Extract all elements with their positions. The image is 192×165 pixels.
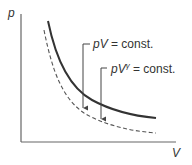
x-axis-label: V	[172, 147, 180, 159]
adiabat-label-suffix: = const.	[133, 62, 175, 76]
pv-diagram	[0, 0, 192, 165]
adiabat-label-prefix: pV	[111, 62, 126, 76]
isotherm-label-suffix: = const.	[111, 37, 153, 51]
isotherm-label: pV = const.	[93, 38, 153, 50]
y-axis-label: p	[8, 7, 15, 19]
adiabat-leader-arrow	[101, 68, 107, 119]
adiabat-label-exponent: γ	[126, 61, 130, 70]
adiabat-label: pVγ = const.	[111, 62, 175, 75]
isotherm-label-prefix: pV	[93, 37, 108, 51]
